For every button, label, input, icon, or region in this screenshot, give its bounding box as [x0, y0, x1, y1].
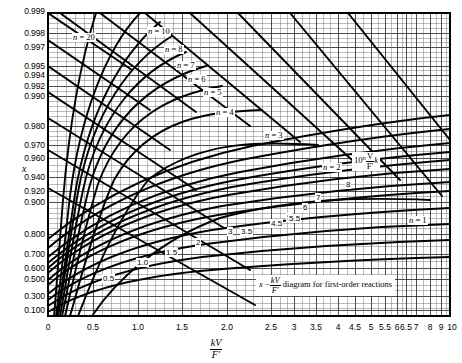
tau-curve-label: 4.5: [270, 219, 283, 228]
y-tick-label: 0.990: [0, 91, 45, 101]
tau-curve-label: 3.5: [240, 227, 253, 236]
x-tick-label: 1.5: [168, 322, 196, 332]
n-curve-label: n = 6: [187, 75, 207, 84]
y-tick-label: 0.600: [0, 263, 45, 273]
caption-denominator: F′: [270, 286, 281, 295]
n-value: = 5: [208, 87, 221, 97]
y-tick-label: 0.980: [0, 121, 45, 131]
n-value: = 4: [220, 107, 233, 117]
tau-curve-label: 0.5: [102, 274, 115, 283]
y-tick-label: 0.999: [0, 6, 45, 16]
n-curve-label: n = 2: [322, 163, 342, 172]
caption-variable: x: [259, 279, 263, 289]
n-curve-label: n = 1: [408, 216, 428, 225]
n-curve-label: n = 7: [176, 61, 196, 70]
tau-curve-label: 1.5: [165, 248, 178, 257]
n-curve-label: n = 8: [164, 45, 184, 54]
x-axis-title-fraction: kV F′: [210, 338, 223, 360]
y-axis-title: x: [22, 163, 26, 174]
tau-curve-label: 2: [195, 238, 201, 247]
chart-root: 0.9990.9980.9970.9950.9940.9920.9900.980…: [0, 0, 462, 363]
tau-curve-label: 3: [227, 227, 233, 236]
n-value: = 3: [269, 130, 282, 140]
x-tick-label: 10: [438, 322, 462, 332]
y-tick-label: 0.800: [0, 229, 45, 239]
chart-canvas: [0, 0, 462, 363]
caption-fraction: kVF′: [270, 276, 281, 295]
chart-caption: x −kVF′ diagram for first-order reaction…: [256, 275, 395, 296]
n-curve-label: n = 4: [215, 108, 235, 117]
y-tick-label: 0.970: [0, 140, 45, 150]
x-tick-label: 1.0: [124, 322, 152, 332]
y-tick-label: 0.900: [0, 197, 45, 207]
n-value: = 7: [181, 60, 194, 70]
n-curve-label: n = 20: [72, 33, 96, 42]
n-value: = 10: [152, 26, 170, 36]
tau-curve-label: 5.5: [288, 214, 301, 223]
tau-curve-label: 1.0: [136, 258, 149, 267]
y-tick-label: 0.998: [0, 28, 45, 38]
n-value: = 1: [413, 215, 426, 225]
annotation-formula: 10nVF′k: [352, 152, 380, 171]
n-curve-label: n = 5: [203, 88, 223, 97]
n-value: = 20: [77, 32, 95, 42]
annotation-formula-suffix: k: [374, 155, 378, 165]
y-tick-label: 0.920: [0, 186, 45, 196]
x-tick-label: 0.5: [79, 322, 107, 332]
x-axis-title-numerator: kV: [210, 338, 223, 350]
n-curve-label: n = 10: [147, 27, 171, 36]
y-tick-label: 0.100: [0, 305, 45, 315]
x-tick-label: 2.0: [213, 322, 241, 332]
y-tick-label: 0.960: [0, 153, 45, 163]
n-value: = 8: [169, 44, 182, 54]
n-value: = 6: [192, 74, 205, 84]
n-curve-label: n = 3: [264, 131, 284, 140]
x-axis-title: kV F′: [196, 338, 236, 360]
y-tick-label: 0.994: [0, 70, 45, 80]
y-tick-label: 0.500: [0, 274, 45, 284]
y-tick-label: 0.300: [0, 291, 45, 301]
tau-curve-label: 7: [315, 193, 321, 202]
n-value: = 2: [327, 162, 340, 172]
tau-curve-label: 6: [302, 203, 308, 212]
tau-curve-label: 8: [345, 180, 351, 189]
y-tick-label: 0.997: [0, 42, 45, 52]
y-tick-label: 0.992: [0, 81, 45, 91]
caption-text: diagram for first-order reactions: [283, 279, 392, 289]
x-axis-title-denominator: F′: [210, 350, 223, 361]
annotation-formula-prefix: 10: [354, 155, 363, 165]
x-tick-label: 0: [34, 322, 62, 332]
y-tick-label: 0.700: [0, 249, 45, 259]
